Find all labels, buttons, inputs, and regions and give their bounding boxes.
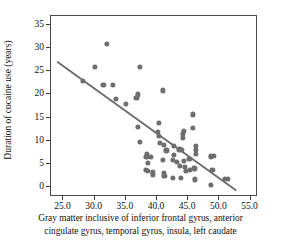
x-axis-tick-mark	[94, 196, 95, 200]
x-axis-title: Gray matter inclusive of inferior fronta…	[4, 212, 277, 237]
x-axis-tick-mark	[62, 196, 63, 200]
y-axis-tick-label: 30	[18, 43, 44, 52]
regression-line	[51, 16, 256, 195]
y-axis-tick-label: 10	[18, 135, 44, 144]
chart-figure: Duration of cocaine use (years) 05101520…	[0, 0, 281, 252]
y-axis-tick-label: 35	[18, 20, 44, 29]
y-axis-tick-label: 15	[18, 112, 44, 121]
x-axis-tick-mark	[125, 196, 126, 200]
plot-area	[50, 15, 257, 196]
x-axis-title-line-2: cingulate gyrus, temporal gyrus, insula,…	[4, 225, 277, 238]
y-axis-title: Duration of cocaine use (years)	[1, 2, 15, 198]
x-axis-tick-mark	[187, 196, 188, 200]
y-axis-tick-label: 0	[18, 181, 44, 190]
y-axis-tick-label: 5	[18, 158, 44, 167]
x-axis-tick-mark	[250, 196, 251, 200]
x-axis-tick-mark	[218, 196, 219, 200]
y-axis-tick-label: 25	[18, 66, 44, 75]
x-axis-title-line-1: Gray matter inclusive of inferior fronta…	[4, 212, 277, 225]
x-axis-tick-mark	[156, 196, 157, 200]
y-axis-tick-label: 20	[18, 89, 44, 98]
x-axis-tick-label: 55.0	[230, 201, 270, 212]
